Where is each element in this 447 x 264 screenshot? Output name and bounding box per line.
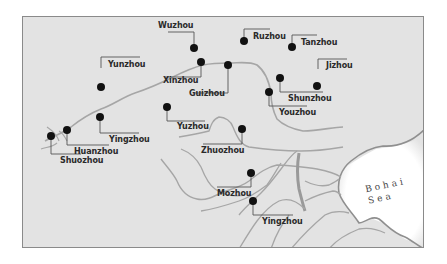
place-label-yingzhou-east: Yingzhou — [262, 217, 303, 226]
place-label-tanzhou: Tanzhou — [301, 38, 337, 47]
place-label-ruzhou: Ruzhou — [253, 32, 286, 41]
place-label-wuzhou: Wuzhou — [158, 21, 193, 30]
place-label-yuzhou: Yuzhou — [177, 122, 209, 131]
place-label-mozhou: Mozhou — [217, 189, 251, 198]
place-label-yingzhou-west: Yingzhou — [109, 135, 150, 144]
map-rivers-and-coast — [23, 17, 424, 248]
place-label-huanzhou: Huanzhou — [74, 147, 118, 156]
place-label-shunzhou: Shunzhou — [288, 94, 332, 103]
map-frame — [22, 16, 424, 248]
place-label-xinzhou: Xinzhou — [163, 76, 198, 85]
place-label-youzhou: Youzhou — [279, 108, 316, 117]
place-label-yunzhou: Yunzhou — [108, 60, 145, 69]
place-label-shuozhou: Shuozhou — [60, 156, 103, 165]
place-label-guizhou: Guizhou — [189, 89, 225, 98]
place-label-zhuozhou: Zhuozhou — [201, 146, 244, 155]
place-label-jizhou: Jizhou — [326, 61, 353, 70]
